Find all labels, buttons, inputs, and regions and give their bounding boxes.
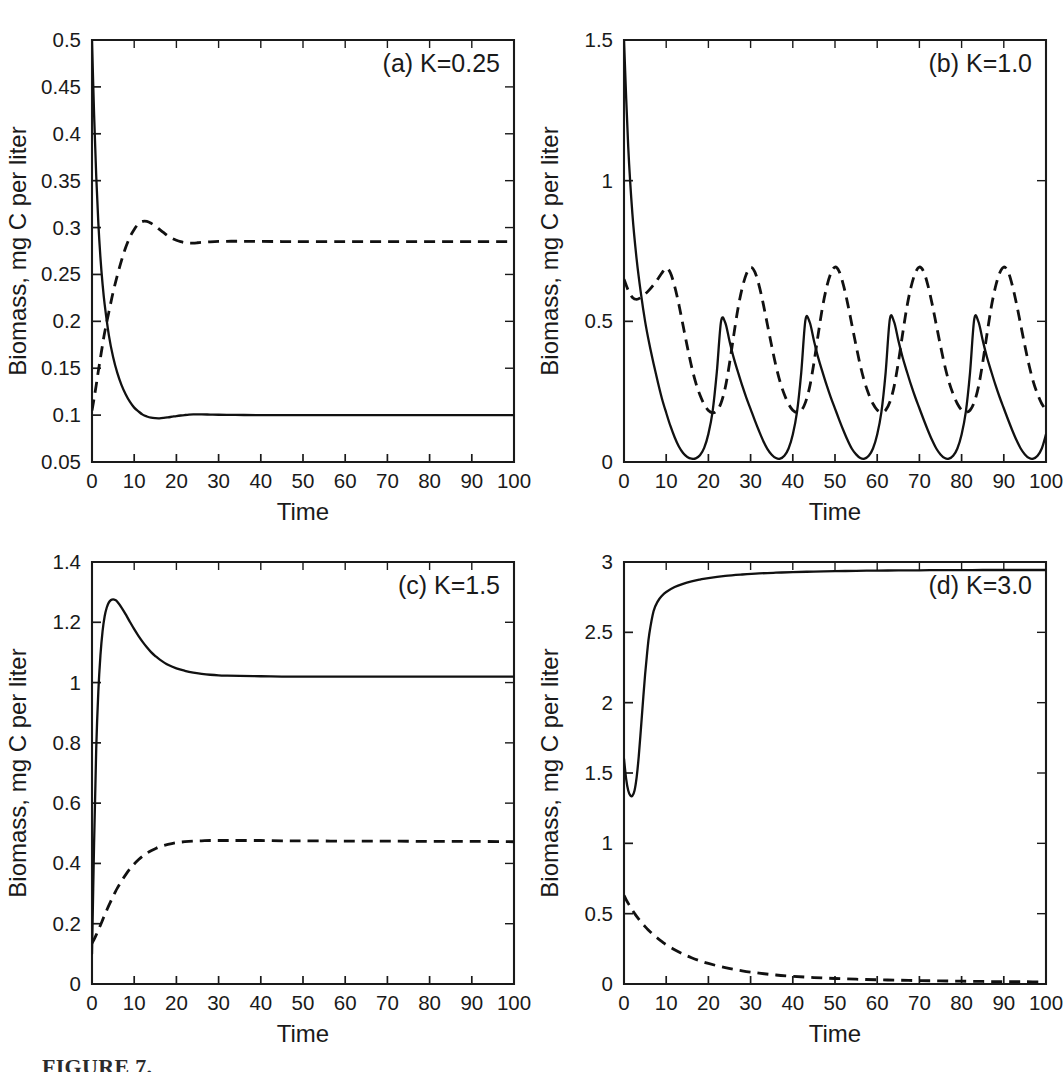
- panel-label: (d) K=3.0: [928, 571, 1032, 599]
- series-solid: [92, 599, 514, 953]
- y-tick-label: 0.5: [585, 902, 614, 925]
- panel-label: (c) K=1.5: [398, 571, 500, 599]
- panel-b: 010203040506070809010000.511.5(b) K=1.0T…: [532, 18, 1064, 540]
- plot-area-d: 010203040506070809010000.511.522.53(d) K…: [532, 540, 1064, 1062]
- x-tick-label: 0: [618, 991, 629, 1014]
- y-tick-label: 0.15: [41, 356, 81, 379]
- x-tick-label: 40: [781, 469, 804, 492]
- plot-area-b: 010203040506070809010000.511.5(b) K=1.0T…: [532, 18, 1064, 540]
- x-tick-label: 90: [460, 991, 483, 1014]
- y-tick-label: 1.2: [53, 610, 82, 633]
- x-tick-label: 40: [249, 991, 272, 1014]
- x-tick-label: 0: [86, 991, 97, 1014]
- y-tick-label: 0: [70, 972, 81, 995]
- x-tick-label: 20: [165, 991, 188, 1014]
- x-tick-label: 80: [950, 469, 973, 492]
- y-tick-label: 1: [602, 831, 613, 854]
- x-tick-label: 80: [418, 991, 441, 1014]
- y-tick-label: 0.5: [585, 309, 614, 332]
- series-dashed: [624, 895, 1046, 982]
- y-axis-title: Biomass, mg C per liter: [536, 126, 563, 375]
- y-tick-label: 3: [602, 550, 613, 573]
- plot-area-a: 01020304050607080901000.050.10.150.20.25…: [0, 18, 532, 540]
- x-tick-label: 100: [1029, 991, 1063, 1014]
- figure-caption: FIGURE 7.: [42, 1054, 1022, 1072]
- x-axis-title: Time: [277, 1020, 329, 1047]
- x-tick-label: 40: [781, 991, 804, 1014]
- y-tick-label: 0.05: [41, 450, 81, 473]
- series-solid: [624, 570, 1046, 796]
- x-tick-label: 70: [376, 469, 399, 492]
- y-tick-label: 1: [602, 169, 613, 192]
- y-axis-title: Biomass, mg C per liter: [4, 126, 31, 375]
- y-tick-label: 0.8: [53, 731, 82, 754]
- y-tick-label: 1.5: [585, 28, 614, 51]
- y-tick-label: 2: [602, 691, 613, 714]
- panel-c: 010203040506070809010000.20.40.60.811.21…: [0, 540, 532, 1062]
- x-tick-label: 50: [292, 991, 315, 1014]
- y-tick-label: 0.1: [53, 403, 82, 426]
- y-tick-label: 1.5: [585, 761, 614, 784]
- x-tick-label: 90: [992, 991, 1015, 1014]
- x-axis-title: Time: [277, 498, 329, 525]
- y-tick-label: 0.2: [53, 912, 82, 935]
- x-tick-label: 70: [376, 991, 399, 1014]
- panel-a: 01020304050607080901000.050.10.150.20.25…: [0, 18, 532, 540]
- x-tick-label: 30: [207, 469, 230, 492]
- x-tick-label: 20: [165, 469, 188, 492]
- y-tick-label: 0.2: [53, 309, 82, 332]
- x-tick-label: 10: [123, 991, 146, 1014]
- x-tick-label: 10: [123, 469, 146, 492]
- panel-d: 010203040506070809010000.511.522.53(d) K…: [532, 540, 1064, 1062]
- y-tick-label: 0.5: [53, 28, 82, 51]
- x-tick-label: 60: [334, 991, 357, 1014]
- axes-frame: [624, 562, 1046, 984]
- x-tick-label: 70: [908, 469, 931, 492]
- axes-frame: [624, 40, 1046, 462]
- x-tick-label: 30: [739, 991, 762, 1014]
- y-axis-title: Biomass, mg C per liter: [4, 648, 31, 897]
- x-tick-label: 0: [86, 469, 97, 492]
- y-tick-label: 0.35: [41, 169, 81, 192]
- y-tick-label: 0: [602, 450, 613, 473]
- panel-label: (b) K=1.0: [928, 49, 1032, 77]
- x-axis-title: Time: [809, 498, 861, 525]
- x-tick-label: 60: [866, 991, 889, 1014]
- x-tick-label: 80: [418, 469, 441, 492]
- x-tick-label: 30: [207, 991, 230, 1014]
- x-axis-title: Time: [809, 1020, 861, 1047]
- y-tick-label: 0.4: [53, 122, 82, 145]
- figure-root: 01020304050607080901000.050.10.150.20.25…: [0, 0, 1064, 1072]
- x-tick-label: 40: [249, 469, 272, 492]
- x-tick-label: 10: [655, 991, 678, 1014]
- x-tick-label: 100: [497, 991, 531, 1014]
- x-tick-label: 20: [697, 469, 720, 492]
- x-tick-label: 100: [1029, 469, 1063, 492]
- x-tick-label: 0: [618, 469, 629, 492]
- panel-label: (a) K=0.25: [383, 49, 500, 77]
- y-axis-title: Biomass, mg C per liter: [536, 648, 563, 897]
- series-dashed: [92, 840, 514, 943]
- y-tick-label: 1.4: [53, 550, 82, 573]
- y-tick-label: 2.5: [585, 620, 614, 643]
- series-solid: [624, 40, 1046, 459]
- plot-area-c: 010203040506070809010000.20.40.60.811.21…: [0, 540, 532, 1062]
- x-tick-label: 90: [460, 469, 483, 492]
- y-tick-label: 0.3: [53, 216, 82, 239]
- axes-frame: [92, 40, 514, 462]
- x-tick-label: 50: [292, 469, 315, 492]
- x-tick-label: 20: [697, 991, 720, 1014]
- y-tick-label: 0.6: [53, 791, 82, 814]
- x-tick-label: 70: [908, 991, 931, 1014]
- x-tick-label: 60: [866, 469, 889, 492]
- y-tick-label: 0.25: [41, 262, 81, 285]
- axes-frame: [92, 562, 514, 984]
- x-tick-label: 60: [334, 469, 357, 492]
- series-dashed: [92, 221, 514, 410]
- x-tick-label: 10: [655, 469, 678, 492]
- x-tick-label: 50: [824, 469, 847, 492]
- x-tick-label: 80: [950, 991, 973, 1014]
- x-tick-label: 100: [497, 469, 531, 492]
- y-tick-label: 0.4: [53, 851, 82, 874]
- y-tick-label: 0.45: [41, 75, 81, 98]
